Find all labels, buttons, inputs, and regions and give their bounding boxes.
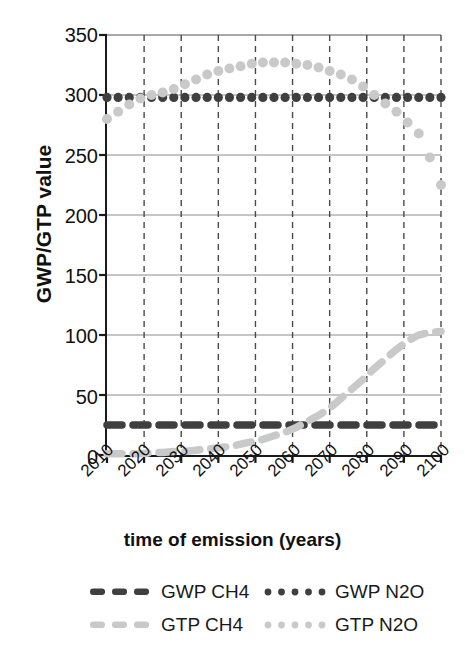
legend-entry[interactable]: GWP CH4 [88,581,262,603]
data-point [191,93,200,102]
plot-area [105,35,441,457]
data-point [180,93,189,102]
y-axis-tick-labels: 050100150200250300350 [34,0,98,655]
data-point [269,93,278,102]
chart-plot [107,35,441,455]
data-point [392,93,401,102]
legend-entry[interactable]: GWP N2O [262,581,458,603]
data-point [236,93,245,102]
data-point [325,66,335,76]
data-point [225,93,234,102]
data-point [336,70,346,80]
y-tick-label: 50 [38,387,98,407]
chart-figure: GWP/GTP value 050100150200250300350 2010… [0,0,465,655]
data-point [391,107,401,117]
data-point [114,93,123,102]
data-point [113,107,123,117]
data-point [213,66,223,76]
data-point [347,93,356,102]
data-point [369,90,379,100]
y-tick-label: 350 [38,25,98,45]
x-axis-tick-labels: 2010202020302040205020602070208020902100 [105,457,441,527]
data-point [358,82,368,92]
data-point [247,93,256,102]
data-point [180,79,190,89]
data-point [314,93,323,102]
data-point [425,93,434,102]
data-point [302,60,312,70]
series-line [107,331,441,453]
data-point [191,74,201,84]
data-point [236,61,246,71]
legend-label: GWP CH4 [161,581,249,603]
legend-entry[interactable]: GTP N2O [262,614,458,636]
data-point [258,93,267,102]
data-point [280,58,290,68]
data-point [102,93,111,102]
y-tick-label: 300 [38,85,98,105]
data-point [281,93,290,102]
data-point [303,93,312,102]
y-tick-label: 150 [38,266,98,286]
data-point [291,59,301,69]
data-point [247,59,257,69]
legend-label: GTP N2O [335,614,418,636]
dotted-line-dark-icon [262,584,328,600]
data-point [414,128,424,138]
data-point [403,118,413,128]
y-tick-label: 250 [38,146,98,166]
data-point [436,93,445,102]
data-point [102,114,112,124]
data-point [380,98,390,108]
data-point [169,93,178,102]
data-point [425,152,435,162]
data-point [169,84,179,94]
data-point [158,88,168,98]
legend-entry[interactable]: GTP CH4 [88,614,262,636]
data-point [325,93,334,102]
data-point [403,93,412,102]
y-tick-label: 100 [38,326,98,346]
data-point [269,58,279,68]
data-point [292,93,301,102]
data-point [203,93,212,102]
chart-legend: GWP CH4GWP N2OGTP CH4GTP N2O [88,578,458,644]
dashed-line-light-icon [88,617,154,633]
legend-row: GWP CH4GWP N2O [88,578,458,606]
legend-row: GTP CH4GTP N2O [88,611,458,639]
dashed-line-dark-icon [88,584,154,600]
data-point [224,64,234,74]
data-point [347,74,357,84]
data-point [336,93,345,102]
data-point [358,93,367,102]
data-point [147,90,157,100]
data-point [135,94,145,104]
data-point [124,100,134,110]
data-point [314,62,324,72]
y-tick-label: 200 [38,206,98,226]
x-axis-title: time of emission (years) [0,529,465,551]
dotted-line-light-icon [262,617,328,633]
data-point [414,93,423,102]
data-point [436,180,446,190]
legend-label: GTP CH4 [161,614,243,636]
legend-label: GWP N2O [335,581,424,603]
data-point [214,93,223,102]
data-point [258,58,268,68]
data-point [202,70,212,80]
